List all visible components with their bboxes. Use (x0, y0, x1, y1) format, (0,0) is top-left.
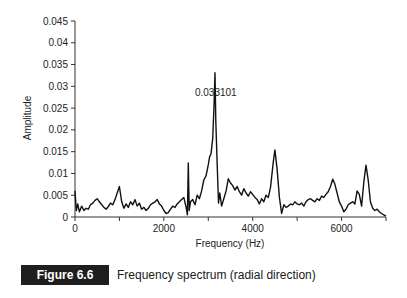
x-tick-label: 0 (72, 223, 78, 234)
x-axis: 0200040006000 (72, 217, 386, 234)
caption-text: Frequency spectrum (radial direction) (117, 268, 316, 282)
x-axis-title: Frequency (Hz) (196, 238, 265, 249)
y-tick-label: 0.03 (49, 81, 69, 92)
frequency-spectrum-chart: 00.0050.010.0150.020.0250.030.0350.040.0… (0, 0, 407, 260)
y-tick-label: 0.02 (49, 124, 69, 135)
peak-annotation: 0.033101 (195, 87, 237, 98)
x-tick-label: 6000 (330, 223, 353, 234)
y-axis-title: Amplitude (22, 95, 33, 140)
x-tick-label: 2000 (153, 223, 176, 234)
y-tick-label: 0.015 (43, 146, 68, 157)
figure-label: Figure 6.6 (21, 265, 109, 285)
y-tick-label: 0.035 (43, 59, 68, 70)
y-tick-label: 0 (62, 212, 68, 223)
y-tick-label: 0.025 (43, 103, 68, 114)
y-tick-label: 0.045 (43, 16, 68, 27)
y-tick-label: 0.005 (43, 190, 68, 201)
figure-caption: Figure 6.6 Frequency spectrum (radial di… (21, 265, 316, 285)
y-axis: 00.0050.010.0150.020.0250.030.0350.040.0… (43, 16, 75, 223)
x-tick-label: 4000 (242, 223, 265, 234)
y-tick-label: 0.04 (49, 37, 69, 48)
y-tick-label: 0.01 (49, 168, 69, 179)
